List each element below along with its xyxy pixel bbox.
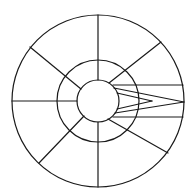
radial-divider-lines (12, 15, 168, 187)
concentric-sector-diagram (0, 0, 194, 196)
inner-circle (77, 80, 119, 122)
wedge-arrow-lines (114, 88, 184, 113)
bottom-right-radial-line (108, 119, 168, 153)
bottom-left-radial-line (39, 116, 84, 163)
top-right-radial-line (109, 42, 161, 83)
